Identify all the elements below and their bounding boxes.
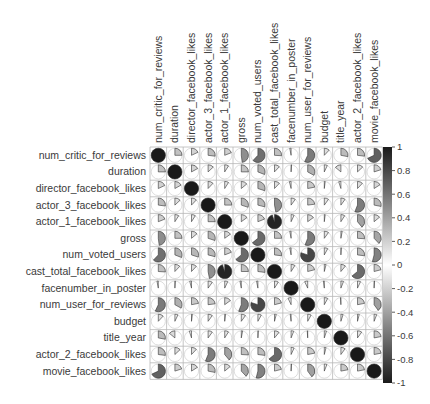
- correlation-pie: [218, 364, 232, 378]
- correlation-pie: [184, 264, 198, 278]
- correlation-pie: [234, 364, 248, 378]
- correlation-pie: [184, 281, 198, 295]
- correlation-pie: [201, 314, 215, 328]
- correlation-pie: [301, 314, 315, 328]
- correlation-pie: [234, 281, 248, 295]
- correlation-pie: [168, 165, 182, 179]
- colorbar-tick-label: -0.2: [397, 283, 413, 294]
- correlation-pie: [151, 181, 165, 195]
- correlation-pie: [350, 331, 364, 345]
- correlation-pie: [201, 347, 215, 361]
- correlation-pie: [284, 314, 298, 328]
- correlation-pie: [301, 281, 315, 295]
- column-label: duration: [168, 105, 180, 143]
- correlation-pie: [267, 198, 281, 212]
- correlation-pie: [218, 298, 232, 312]
- correlation-pie: [201, 364, 215, 378]
- correlation-pie: [301, 248, 315, 262]
- correlation-pie: [168, 248, 182, 262]
- correlation-pie: [151, 347, 165, 361]
- correlation-pie: [317, 347, 331, 361]
- correlation-pie: [218, 264, 232, 278]
- correlation-pie: [234, 264, 248, 278]
- colorbar-tick-label: 0: [397, 259, 402, 270]
- row-label: cast_total_facebook_likes: [26, 265, 146, 277]
- correlation-pie: [184, 314, 198, 328]
- correlation-pie: [284, 215, 298, 229]
- correlation-pie: [334, 298, 348, 312]
- correlation-pie: [251, 248, 265, 262]
- correlation-pie: [367, 264, 381, 278]
- correlation-pie: [334, 281, 348, 295]
- correlation-pie: [284, 364, 298, 378]
- correlation-pie: [234, 248, 248, 262]
- correlation-pie: [284, 148, 298, 162]
- correlation-pie: [251, 281, 265, 295]
- correlation-pie: [168, 264, 182, 278]
- correlation-pie: [151, 314, 165, 328]
- correlation-pie: [251, 314, 265, 328]
- correlation-pie: [350, 165, 364, 179]
- correlation-pie: [301, 181, 315, 195]
- correlation-pie: [301, 215, 315, 229]
- row-label: title_year: [103, 331, 146, 343]
- correlation-pie: [367, 364, 381, 378]
- correlation-pie: [168, 198, 182, 212]
- correlation-pie: [367, 231, 381, 245]
- correlation-pie: [284, 181, 298, 195]
- correlation-pie: [151, 148, 165, 162]
- correlation-pie: [251, 331, 265, 345]
- grid-lines: [150, 147, 382, 379]
- correlation-pie: [284, 281, 298, 295]
- correlation-pie: [301, 264, 315, 278]
- correlation-pie: [234, 215, 248, 229]
- correlation-pie: [367, 281, 381, 295]
- correlation-pie: [151, 248, 165, 262]
- column-labels: num_critic_for_reviewsdurationdirector_f…: [152, 23, 380, 143]
- correlation-pie: [234, 198, 248, 212]
- column-label: num_voted_users: [251, 60, 263, 143]
- correlation-pie: [251, 347, 265, 361]
- column-label: actor_3_facebook_likes: [202, 33, 214, 143]
- correlation-pie: [234, 298, 248, 312]
- colorbar-gradient: [383, 147, 392, 383]
- correlation-pie: [218, 231, 232, 245]
- column-label: budget: [318, 111, 330, 143]
- correlation-pie: [218, 198, 232, 212]
- correlation-pie: [317, 181, 331, 195]
- correlation-pie: [218, 181, 232, 195]
- colorbar-tick-label: -0.6: [397, 330, 413, 341]
- correlation-pie: [367, 198, 381, 212]
- correlation-pie: [367, 347, 381, 361]
- correlation-pie: [334, 347, 348, 361]
- correlation-pie: [350, 215, 364, 229]
- correlation-pie: [367, 165, 381, 179]
- correlation-pie: [251, 364, 265, 378]
- correlation-pie: [251, 231, 265, 245]
- row-label: actor_2_facebook_likes: [36, 348, 146, 360]
- correlation-pie: [168, 331, 182, 345]
- correlation-pie: [234, 181, 248, 195]
- correlation-pie: [251, 264, 265, 278]
- correlation-pie: [218, 331, 232, 345]
- correlation-pie: [284, 298, 298, 312]
- correlation-pie: [184, 198, 198, 212]
- correlation-pie: [267, 165, 281, 179]
- column-label: num_critic_for_reviews: [152, 36, 164, 143]
- correlation-pie: [184, 364, 198, 378]
- correlation-pie: [334, 231, 348, 245]
- correlation-pie: [251, 198, 265, 212]
- row-label: num_voted_users: [63, 248, 146, 260]
- correlation-pie: [184, 298, 198, 312]
- correlation-pie: [184, 231, 198, 245]
- correlation-pie: [234, 165, 248, 179]
- correlation-pie: [168, 298, 182, 312]
- correlation-pie: [168, 215, 182, 229]
- correlation-pie: [317, 314, 331, 328]
- correlation-pie: [201, 248, 215, 262]
- correlation-pie: [251, 181, 265, 195]
- correlation-pie: [267, 148, 281, 162]
- correlation-pie: [267, 264, 281, 278]
- column-label: gross: [235, 117, 247, 143]
- correlation-pie: [267, 364, 281, 378]
